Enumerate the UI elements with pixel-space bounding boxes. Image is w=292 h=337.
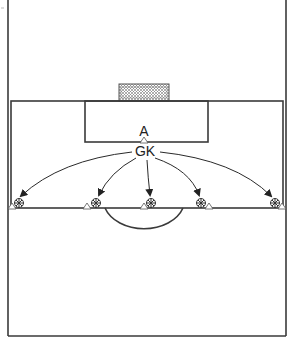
ball-icon — [147, 199, 156, 208]
ball-icon — [92, 199, 101, 208]
field-boundary — [1, 0, 286, 336]
goalkeeper-label: GK — [135, 143, 156, 159]
balls — [15, 199, 280, 208]
cone-icon — [205, 203, 213, 209]
penalty-arc — [105, 208, 183, 229]
attacker-label: A — [139, 123, 149, 139]
soccer-drill-diagram: A GK — [0, 0, 292, 337]
ball-icon — [197, 199, 206, 208]
cone-icon — [83, 203, 91, 209]
goal — [119, 84, 169, 101]
ball-icon — [15, 199, 24, 208]
ball-icon — [271, 199, 280, 208]
